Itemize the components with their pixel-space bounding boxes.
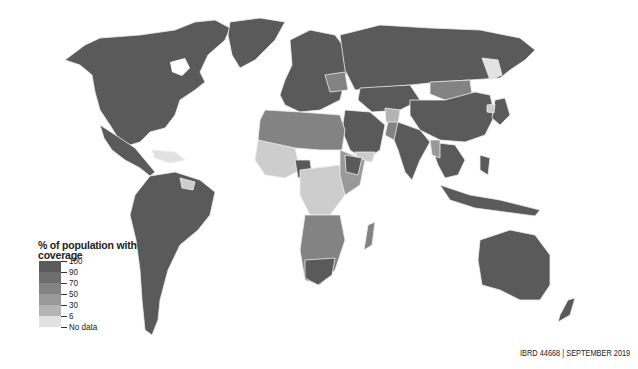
region-philippines — [480, 155, 490, 175]
region-new-zealand — [558, 298, 575, 322]
region-myanmar — [430, 140, 440, 158]
region-europe — [280, 30, 350, 112]
legend-tick — [61, 305, 67, 306]
region-australia — [478, 230, 550, 300]
legend-tick — [61, 327, 67, 328]
legend-tick — [61, 316, 67, 317]
legend-label-6: 6 — [69, 311, 74, 321]
region-madagascar — [364, 222, 375, 250]
legend-swatch-90 — [39, 272, 61, 283]
legend-swatch-30 — [39, 305, 61, 316]
legend-tick — [61, 294, 67, 295]
legend-tick — [61, 283, 67, 284]
legend-swatch-100 — [39, 261, 61, 272]
legend-label-100: 100 — [69, 256, 82, 266]
legend-label-50: 50 — [69, 289, 78, 299]
legend-label-90: 90 — [69, 267, 78, 277]
region-indonesia — [440, 185, 540, 216]
legend-label-30: 30 — [69, 300, 78, 310]
legend-label-70: 70 — [69, 278, 78, 288]
region-korea-japan — [492, 98, 510, 125]
region-central-africa — [300, 165, 345, 215]
legend-label-no-data: No data — [69, 322, 97, 332]
region-greenland — [228, 18, 285, 68]
region-north-korea — [487, 104, 495, 113]
region-caribbean — [152, 150, 185, 163]
map-credit: IBRD 44668 | SEPTEMBER 2019 — [520, 348, 630, 358]
region-russia — [340, 25, 535, 90]
legend-swatch-50 — [39, 294, 61, 305]
legend-swatch-70 — [39, 283, 61, 294]
legend-title-line2: coverage — [38, 250, 137, 260]
legend-swatch-no-data — [39, 316, 61, 327]
legend-tick — [61, 261, 67, 262]
region-south-america — [130, 172, 215, 335]
legend-tick — [61, 272, 67, 273]
map-legend: % of population with coverage 100 90 70 … — [38, 240, 137, 333]
region-north-america — [65, 20, 230, 145]
legend-scale: 100 90 70 50 30 6 No data — [38, 261, 128, 333]
